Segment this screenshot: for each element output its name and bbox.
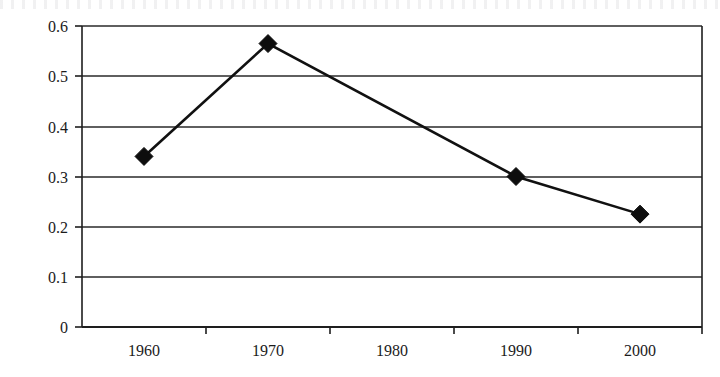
data-point-marker bbox=[507, 168, 525, 186]
y-axis-label-0.5: 0.5 bbox=[48, 68, 68, 85]
x-axis-label-1980: 1980 bbox=[376, 342, 408, 359]
series-1-line bbox=[144, 44, 640, 215]
x-tick-marks bbox=[206, 327, 702, 334]
x-axis-label-1990: 1990 bbox=[500, 342, 532, 359]
y-tick-labels: 0.6 0.5 0.4 0.3 0.2 0.1 0 bbox=[48, 18, 68, 336]
data-point-marker bbox=[631, 205, 649, 223]
y-axis-label-0.1: 0.1 bbox=[48, 269, 68, 286]
y-axis-label-0.3: 0.3 bbox=[48, 169, 68, 186]
y-axis-label-0.4: 0.4 bbox=[48, 119, 68, 136]
data-series-1 bbox=[135, 35, 649, 224]
y-axis-label-0: 0 bbox=[60, 319, 68, 336]
line-chart-figure: 0.6 0.5 0.4 0.3 0.2 0.1 0 1960 1970 1980… bbox=[0, 0, 720, 377]
y-tick-marks bbox=[75, 26, 82, 327]
x-axis-label-1960: 1960 bbox=[128, 342, 160, 359]
series-1-markers bbox=[135, 35, 649, 224]
y-axis-label-0.6: 0.6 bbox=[48, 18, 68, 35]
x-tick-labels: 1960 1970 1980 1990 2000 bbox=[128, 342, 656, 359]
gridlines bbox=[82, 26, 702, 277]
chart-canvas: 0.6 0.5 0.4 0.3 0.2 0.1 0 1960 1970 1980… bbox=[0, 0, 720, 377]
x-axis-label-2000: 2000 bbox=[624, 342, 656, 359]
y-axis-label-0.2: 0.2 bbox=[48, 219, 68, 236]
x-axis-label-1970: 1970 bbox=[252, 342, 284, 359]
